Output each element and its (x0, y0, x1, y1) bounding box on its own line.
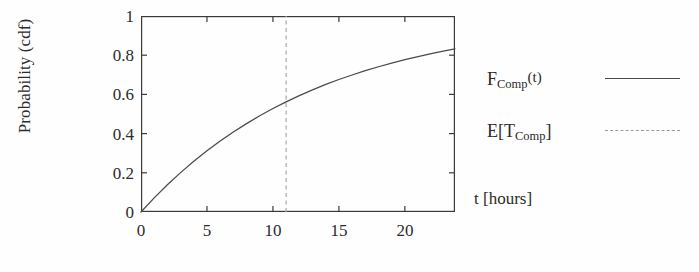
legend-label-cdf-tail: (t) (528, 69, 542, 85)
legend-label-expected-value: E[TComp] (487, 122, 552, 140)
x-axis-title: t [hours] (474, 189, 532, 209)
legend-item-expected-value: E[TComp] (487, 116, 692, 168)
y-axis-tick-labels: 1 0.8 0.6 0.4 0.2 0 (62, 16, 134, 212)
axis-ticks (141, 16, 455, 212)
x-tick-label: 5 (187, 222, 227, 239)
cdf-curve (141, 49, 455, 212)
legend-swatch-dashed-line (605, 130, 680, 133)
legend-item-cdf: FComp(t) (487, 64, 692, 116)
legend-label-cdf-sub: Comp (497, 77, 528, 91)
chart-legend: FComp(t) E[TComp] (487, 64, 692, 168)
plot-canvas (141, 16, 455, 212)
x-tick-label: 0 (121, 222, 161, 239)
legend-swatch-solid-line (605, 78, 680, 81)
legend-label-cdf-main: F (487, 69, 497, 89)
y-tick-label: 0.6 (113, 86, 134, 103)
x-tick-label: 10 (253, 222, 293, 239)
legend-label-ev-tail: ] (546, 121, 552, 141)
y-tick-label: 1 (126, 8, 135, 25)
x-axis-tick-labels: 0 5 10 15 20 (141, 222, 471, 246)
chart-figure: Probability (cdf) 1 0.8 0.6 0.4 0.2 0 0 … (0, 0, 699, 272)
plot-area (141, 16, 455, 212)
legend-label-cdf: FComp(t) (487, 70, 542, 88)
legend-label-ev-main: E[T (487, 121, 515, 141)
legend-label-ev-sub: Comp (515, 129, 546, 143)
y-tick-label: 0 (126, 204, 135, 221)
y-tick-label: 0.4 (113, 126, 134, 143)
x-tick-label: 20 (385, 222, 425, 239)
y-axis-title: Probability (cdf) (15, 0, 35, 171)
plot-frame (142, 17, 455, 212)
x-tick-label: 15 (319, 222, 359, 239)
y-tick-label: 0.2 (113, 165, 134, 182)
y-tick-label: 0.8 (113, 47, 134, 64)
